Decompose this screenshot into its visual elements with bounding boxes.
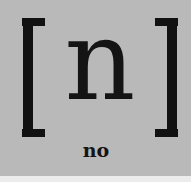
example-word: no: [60, 138, 132, 162]
left-bracket: [22, 18, 45, 137]
right-bracket: [155, 18, 178, 137]
phonetic-card: n no: [0, 0, 191, 176]
phonetic-symbol: n: [56, 6, 144, 116]
